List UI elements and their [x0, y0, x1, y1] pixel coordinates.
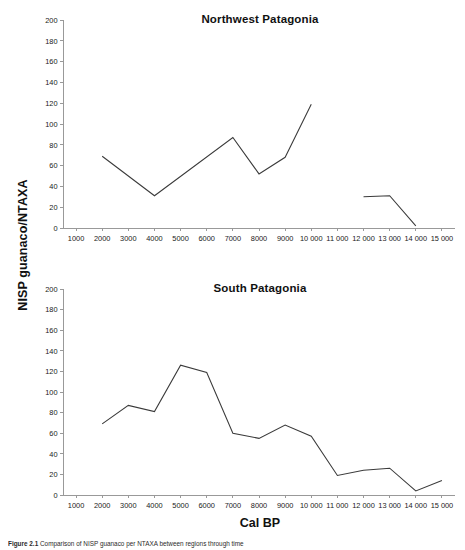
chart-panel-south-patagonia — [0, 268, 465, 516]
chart-title-south-patagonia: South Patagonia — [63, 282, 457, 294]
x-axis-title: Cal BP — [60, 516, 460, 530]
figure-caption-prefix: Figure 2.1 — [8, 540, 38, 547]
figure-caption: Figure 2.1 Comparison of NISP guanaco pe… — [8, 540, 460, 550]
chart-title-northwest-patagonia: Northwest Patagonia — [63, 13, 457, 25]
chart-panel-northwest-patagonia — [0, 0, 465, 262]
figure-caption-text: Comparison of NISP guanaco per NTAXA bet… — [40, 540, 244, 547]
figure-container: NISP guanaco/NTAXA Northwest Patagonia S… — [0, 0, 465, 550]
